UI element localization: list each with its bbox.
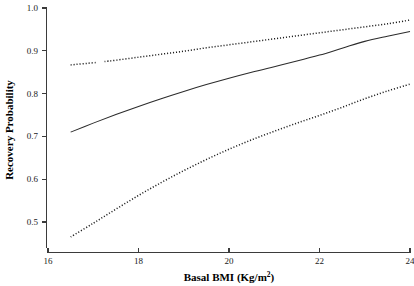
lower-confidence-curve bbox=[71, 84, 410, 237]
y-tick-label-0.6: 0.6 bbox=[27, 174, 39, 184]
x-tick-label-18: 18 bbox=[134, 256, 144, 266]
x-tick-label-22: 22 bbox=[315, 256, 324, 266]
x-tick-label-24: 24 bbox=[406, 256, 414, 266]
upper-confidence-curve-segment-1 bbox=[71, 62, 97, 65]
y-tick-label-0.5: 0.5 bbox=[27, 217, 39, 227]
y-tick-label-1.0: 1.0 bbox=[27, 3, 39, 13]
x-tick-label-16: 16 bbox=[44, 256, 54, 266]
y-axis-title: Recovery Probability bbox=[3, 80, 15, 180]
y-tick-label-0.7: 0.7 bbox=[27, 131, 39, 141]
x-tick-label-20: 20 bbox=[225, 256, 235, 266]
upper-confidence-curve-segment-2 bbox=[105, 20, 410, 62]
x-axis-title-main: Basal BMI (Kg/m bbox=[184, 271, 267, 284]
y-tick-label-0.9: 0.9 bbox=[27, 46, 39, 56]
x-axis-title: Basal BMI (Kg/m2) bbox=[184, 270, 275, 284]
x-axis-ticks bbox=[48, 248, 410, 253]
predicted-probability-curve bbox=[71, 32, 410, 133]
chart-canvas: 1.0 0.9 0.8 0.7 0.6 0.5 16 18 20 22 24 B… bbox=[0, 0, 414, 286]
recovery-probability-chart: 1.0 0.9 0.8 0.7 0.6 0.5 16 18 20 22 24 B… bbox=[0, 0, 414, 286]
curve-group bbox=[71, 20, 410, 237]
y-tick-label-0.8: 0.8 bbox=[27, 89, 39, 99]
y-axis-ticks bbox=[42, 8, 47, 222]
x-axis-title-close: ) bbox=[271, 271, 275, 284]
